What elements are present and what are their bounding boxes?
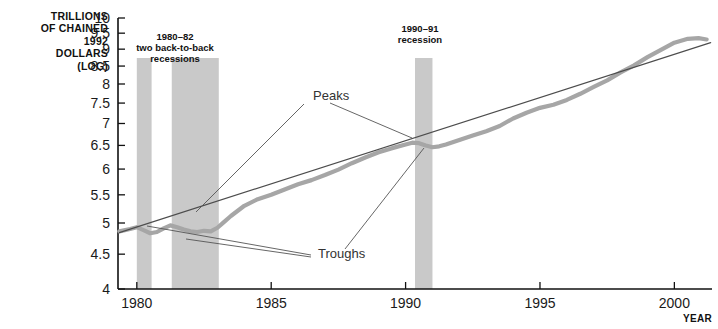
y-tick-label-0: 4 — [102, 281, 110, 297]
y-tick-label-8: 8 — [102, 76, 110, 92]
chart-plot-area: 44.555.566.577.588.599.510 1980198519901… — [0, 0, 718, 329]
recession-label-1980-82-line-1: two back-to-back — [136, 42, 214, 53]
y-tick-label-9: 8.5 — [91, 58, 111, 74]
recession-label-1980-82-line-0: 1980–82 — [157, 31, 194, 42]
x-tick-label-1: 1985 — [256, 295, 287, 311]
leader-line-2 — [147, 226, 311, 255]
y-tick-label-2: 5 — [102, 215, 110, 231]
y-tick-label-10: 9 — [102, 41, 110, 57]
recession-label-1990-91-line-0: 1990–91 — [402, 23, 440, 34]
recession-bands-group — [137, 58, 433, 289]
recession-band-0 — [137, 58, 152, 289]
y-tick-label-4: 6 — [102, 161, 110, 177]
leader-line-1 — [330, 103, 412, 138]
y-tick-label-3: 5.5 — [91, 187, 111, 203]
x-axis-title: YEAR — [683, 313, 712, 324]
x-tick-label-2: 1990 — [390, 295, 421, 311]
y-tick-label-5: 6.5 — [91, 137, 111, 153]
recession-band-2 — [415, 58, 432, 289]
y-tick-label-12: 10 — [94, 10, 110, 26]
peaks-callout: Peaks — [313, 88, 350, 103]
recession-label-1990-91-line-1: recession — [398, 34, 443, 45]
y-axis-ticks-group: 44.555.566.577.588.599.510 — [91, 10, 125, 297]
x-tick-label-4: 2000 — [659, 295, 690, 311]
recession-label-1990-91: 1990–91recession — [398, 23, 443, 45]
chart-root: TRILLIONS OF CHAINED 1992 DOLLARS (LOG) … — [0, 0, 718, 329]
x-tick-label-0: 1980 — [121, 295, 152, 311]
y-tick-label-11: 9.5 — [91, 25, 111, 41]
troughs-callout: Troughs — [318, 246, 366, 261]
y-tick-label-1: 4.5 — [91, 246, 111, 262]
recession-band-1 — [172, 58, 219, 289]
x-tick-label-3: 1995 — [524, 295, 555, 311]
y-tick-label-7: 7.5 — [91, 95, 111, 111]
y-tick-label-6: 7 — [102, 115, 110, 131]
recession-label-1980-82-line-2: recessions — [150, 53, 200, 64]
